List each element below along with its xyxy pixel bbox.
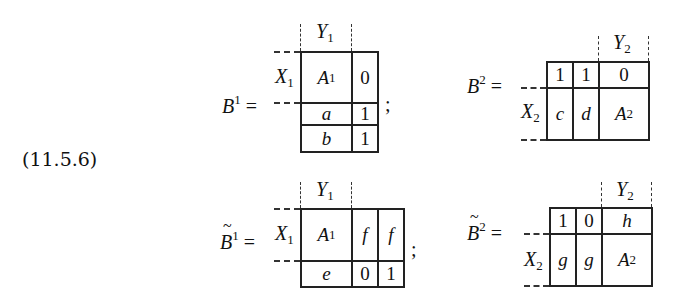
semicolon: ; [411,238,417,261]
dashed-guide [524,285,549,287]
dashed-guide [300,24,301,51]
superscript: 2 [479,72,486,87]
cell: g [551,235,575,285]
cell: A2 [603,235,651,285]
grid-line [403,208,405,288]
cell: 0 [600,63,648,87]
equals-sign: = [491,222,502,244]
row-label-sub: 2 [533,110,540,125]
superscript: 1 [232,228,239,243]
dashed-guide [521,139,546,141]
symbol-b: B [222,95,234,117]
row-block-label: X1 [275,222,294,248]
dashed-guide [598,36,599,61]
cell-text: A [317,224,329,246]
col-block-label: Y2 [613,31,631,57]
dashed-guide [274,260,300,262]
matrix-bt1-lhs: B1 = [220,228,255,254]
dashed-guide [521,87,546,89]
grid-line [377,51,379,153]
cell: e [302,262,351,286]
col-block-label: Y2 [616,178,634,204]
cell-text: A [317,67,329,89]
cell: h [603,209,651,233]
col-block-label: Y1 [316,20,334,46]
row-label-sub: 1 [287,232,294,247]
row-label-base: X [275,65,287,87]
cell: 0 [577,209,601,233]
superscript: 1 [329,227,336,243]
matrix-bt2-lhs: B2 = [467,219,502,245]
cell: 1 [353,126,377,151]
row-label-base: X [275,222,287,244]
col-label-sub: 2 [627,188,634,203]
cell: A1 [302,53,351,102]
superscript: 1 [234,92,241,107]
cell: c [548,89,572,139]
dashed-guide [351,182,352,208]
superscript: 2 [479,219,486,234]
dashed-guide [274,51,300,53]
dashed-guide [651,182,652,207]
col-block-label: Y1 [316,178,334,204]
grid-line [648,61,650,141]
cell: A1 [302,210,351,260]
grid-line [300,151,379,153]
cell-text: A [618,249,630,271]
dashed-guide [524,233,549,235]
col-label-sub: 1 [327,30,334,45]
superscript: 2 [630,252,637,268]
cell: a [302,104,351,124]
col-label-base: Y [613,31,624,53]
cell: 0 [353,53,377,102]
dashed-guide [300,182,301,208]
equals-sign: = [244,231,255,253]
cell: 1 [551,209,575,233]
row-label-base: X [521,100,533,122]
row-block-label: X1 [275,65,294,91]
symbol-b: B [467,75,479,97]
dashed-guide [648,36,649,61]
equals-sign: = [246,95,257,117]
row-label-sub: 2 [536,258,543,273]
cell: b [302,126,351,151]
col-label-base: Y [316,178,327,200]
cell: f [379,210,403,260]
cell: 0 [353,262,377,286]
dashed-guide [274,102,300,104]
cell: f [353,210,377,260]
cell: A2 [600,89,648,139]
cell: 1 [379,262,403,286]
equals-sign: = [491,75,502,97]
equation-number: (11.5.6) [22,148,97,170]
superscript: 2 [627,106,634,122]
col-label-base: Y [316,20,327,42]
col-label-sub: 1 [327,188,334,203]
row-label-base: X [524,248,536,270]
col-label-sub: 2 [624,41,631,56]
cell: 1 [548,63,572,87]
superscript: 1 [329,70,336,86]
symbol-b-tilde: B [467,222,479,245]
cell: d [574,89,598,139]
col-label-base: Y [616,178,627,200]
matrix-b1-lhs: B1 = [222,92,257,118]
cell: 1 [353,104,377,124]
dashed-guide [601,182,602,207]
cell: 1 [574,63,598,87]
semicolon: ; [385,93,391,116]
cell: g [577,235,601,285]
matrix-b2-lhs: B2 = [467,72,502,98]
row-block-label: X2 [524,248,543,274]
dashed-guide [351,24,352,51]
grid-line [651,207,653,287]
row-label-sub: 1 [287,75,294,90]
symbol-b-tilde: B [220,231,232,254]
row-block-label: X2 [521,100,540,126]
cell-text: A [615,103,627,125]
dashed-guide [274,208,300,210]
